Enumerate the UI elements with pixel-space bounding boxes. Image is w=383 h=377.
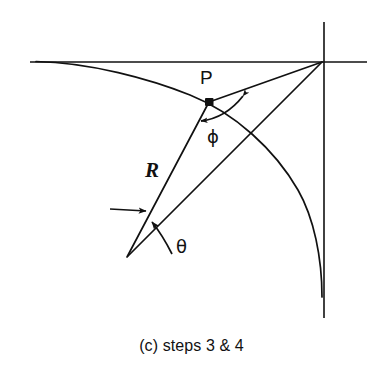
angle-theta-label: θ	[176, 238, 187, 256]
figure-caption: (c) steps 3 & 4	[0, 337, 383, 355]
point-p-label: P	[200, 68, 213, 87]
tractrix-curve	[36, 62, 322, 298]
tangent-line-origin-to-p	[209, 62, 322, 102]
theta-angle-arc	[152, 222, 172, 254]
diagram-canvas	[0, 0, 383, 377]
tangent-line-through-p	[127, 102, 209, 257]
r-length-arrow	[110, 209, 146, 211]
point-p-marker	[205, 98, 214, 106]
angle-phi-label: ϕ	[207, 128, 219, 146]
figure-container: P R ϕ θ (c) steps 3 & 4	[0, 0, 383, 377]
radius-r-label: R	[145, 160, 159, 181]
